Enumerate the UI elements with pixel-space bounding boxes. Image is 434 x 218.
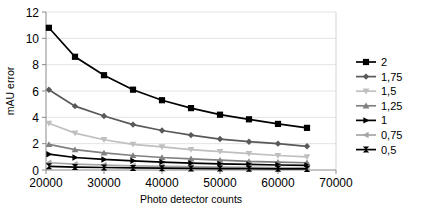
chart-canvas: 024681012200003000040000500006000070000P… (0, 0, 434, 218)
x-tick-label: 30000 (87, 176, 121, 190)
y-tick-label: 8 (32, 58, 39, 72)
x-tick-label: 60000 (261, 176, 295, 190)
legend-item-2[interactable]: 2 (356, 56, 387, 68)
legend-marker (363, 73, 369, 79)
marker-triangle-left (363, 132, 369, 138)
legend-label: 1 (381, 114, 387, 126)
x-tick-label: 40000 (145, 176, 179, 190)
y-axis-title: mAU error (4, 66, 16, 115)
marker-square (363, 59, 369, 65)
y-tick-label: 12 (26, 6, 40, 20)
legend-item-1-5[interactable]: 1,5 (356, 85, 396, 97)
legend-item-1-25[interactable]: 1,25 (356, 100, 402, 112)
marker-square (188, 105, 194, 111)
legend-label: 1,75 (381, 71, 402, 83)
marker-square (130, 87, 136, 93)
legend-label: 2 (381, 56, 387, 68)
chart-legend: 21,751,51,2510,750,5 (356, 56, 402, 156)
chart-figure: 024681012200003000040000500006000070000P… (0, 0, 434, 218)
legend-label: 0,75 (381, 129, 402, 141)
legend-marker (363, 132, 369, 138)
y-tick-label: 6 (32, 85, 39, 99)
legend-label: 1,25 (381, 100, 402, 112)
marker-square (304, 125, 310, 131)
y-tick-label: 2 (32, 137, 39, 151)
legend-label: 0,5 (381, 144, 396, 156)
marker-triangle-right (363, 117, 369, 123)
y-tick-label: 10 (26, 32, 40, 46)
marker-square (217, 112, 223, 118)
marker-diamond (363, 73, 369, 79)
marker-square (101, 72, 107, 78)
marker-square (246, 116, 252, 122)
legend-item-1[interactable]: 1 (356, 114, 387, 126)
y-tick-label: 4 (32, 111, 39, 125)
marker-square (159, 97, 165, 103)
legend-item-0-5[interactable]: 0,5 (356, 144, 396, 156)
x-axis-title: Photo detector counts (140, 193, 242, 205)
marker-square (72, 54, 78, 60)
marker-square (275, 121, 281, 127)
legend-item-1-75[interactable]: 1,75 (356, 71, 402, 83)
legend-marker (363, 59, 369, 65)
x-tick-label: 50000 (203, 176, 237, 190)
x-tick-label: 70000 (319, 176, 353, 190)
marker-square (46, 25, 52, 31)
x-tick-label: 20000 (29, 176, 63, 190)
legend-item-0-75[interactable]: 0,75 (356, 129, 402, 141)
legend-label: 1,5 (381, 85, 396, 97)
legend-marker (363, 117, 369, 123)
